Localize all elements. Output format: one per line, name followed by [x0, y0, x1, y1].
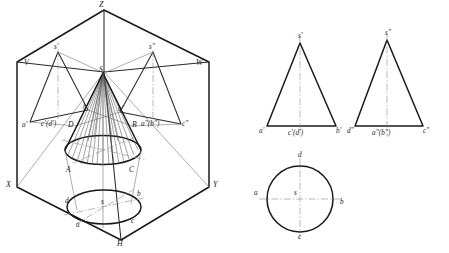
label-side-view-apex: s": [385, 30, 391, 37]
iso-front-projection-triangle: [30, 50, 132, 126]
label-front-view-base-left: a': [259, 128, 264, 135]
label-cone-point-a: A: [66, 166, 71, 174]
label-cone-point-d: D: [68, 121, 74, 129]
label-top-view-bottom: c: [298, 234, 301, 241]
drawing-canvas: .hv{stroke:#1a1a1a;stroke-width:1.5;fill…: [0, 0, 449, 253]
label-iso-top-right: b: [137, 191, 141, 198]
label-iso-side-left: a"(b"): [141, 121, 160, 128]
label-axis-x: X: [6, 181, 11, 189]
label-side-view-base-right: c": [423, 128, 429, 135]
front-view-triangle: [267, 36, 336, 136]
label-iso-front-right: b': [83, 104, 88, 111]
label-iso-front-mid: c'(d'): [41, 121, 56, 128]
label-cone-point-b: B: [132, 121, 137, 129]
label-iso-top-left: d: [65, 198, 69, 205]
label-top-view-center: s: [294, 190, 297, 197]
label-top-view-right: b: [340, 199, 344, 206]
label-iso-side-right: c": [182, 121, 188, 128]
label-axis-z: Z: [99, 1, 104, 9]
side-view-triangle: [355, 34, 423, 136]
label-iso-side-apex: s": [149, 44, 155, 51]
label-iso-front-apex: s': [54, 44, 59, 51]
top-view-circle: [259, 158, 341, 240]
label-front-view-base-right: b': [336, 128, 341, 135]
label-front-view-base-center: c'(d'): [288, 130, 303, 137]
label-cone-point-c: C: [129, 166, 134, 174]
label-top-view-top: d: [298, 152, 302, 159]
label-front-view-apex: s': [298, 33, 303, 40]
label-plane-v: V: [24, 59, 29, 67]
cone-solid: [62, 73, 146, 228]
label-iso-top-center: s: [101, 199, 104, 206]
label-side-view-base-left: d": [347, 128, 354, 135]
label-plane-w: W: [196, 59, 203, 67]
label-axis-y: Y: [213, 181, 218, 189]
label-side-view-base-center: a"(b"): [372, 130, 391, 137]
label-iso-top-front: a: [76, 222, 80, 229]
label-iso-side-dprime: b': [118, 106, 123, 113]
label-cone-apex-s: S: [99, 66, 103, 74]
label-iso-top-rear-right: c: [131, 218, 134, 225]
label-iso-front-left: a': [22, 122, 27, 129]
label-top-view-left: a: [254, 190, 258, 197]
label-plane-h: H: [117, 240, 123, 248]
